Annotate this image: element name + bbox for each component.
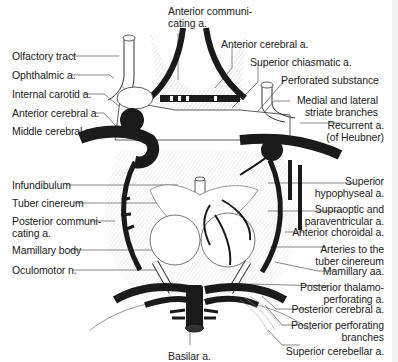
label-line-1: Medial and lateral	[297, 94, 378, 106]
label-line-2: hypophyseal a.	[315, 187, 384, 199]
label-line-2: cating a.	[12, 227, 101, 239]
label-mamillary-body: Mamillary body	[12, 244, 81, 256]
label-superior-cerebellar-artery: Superior cerebellar a.	[286, 345, 384, 357]
label-perforated-substance: Perforated substance	[281, 74, 379, 86]
label-line-1: Supraoptic and	[305, 203, 384, 215]
label-line-1: Posterior perforating	[291, 319, 384, 331]
label-infundibulum: Infundibulum	[12, 179, 71, 191]
label-line-1: Superior	[315, 175, 384, 187]
label-line-1: Arteries to the	[315, 243, 384, 255]
label-posterior-perforating-branches: Posterior perforating branches	[291, 319, 384, 343]
label-line-1: Posterior communi-	[12, 215, 101, 227]
label-line-2: striate branches	[297, 106, 378, 118]
label-line-1: Posterior thalamo-	[300, 281, 384, 293]
label-supraoptic-paraventricular-artery: Supraoptic and paraventricular a.	[305, 203, 384, 227]
label-line-2: branches	[291, 331, 384, 343]
label-posterior-communicating-artery: Posterior communi- cating a.	[12, 215, 101, 239]
label-basilar-artery: Basilar a.	[168, 350, 211, 362]
label-arteries-to-tuber-cinereum: Arteries to the tuber cinereum	[315, 243, 384, 267]
label-superior-hypophyseal-artery: Superior hypophyseal a.	[315, 175, 384, 199]
label-recurrent-artery-heubner: Recurrent a. (of Heubner)	[326, 119, 384, 143]
label-superior-chiasmatic-artery: Superior chiasmatic a.	[250, 56, 352, 68]
label-anterior-cerebral-artery-right: Anterior cerebral a.	[221, 38, 308, 50]
label-olfactory-tract: Olfactory tract	[12, 50, 76, 62]
label-line-2: cating a.	[168, 17, 252, 29]
label-tuber-cinereum: Tuber cinereum	[12, 197, 84, 209]
page-edge	[392, 0, 398, 362]
label-posterior-thalamoperforating-artery: Posterior thalamo- perforating a.	[300, 281, 384, 305]
label-mamillary-arteries: Mamillary aa.	[323, 265, 384, 277]
label-middle-cerebral-artery: Middle cerebral a.	[12, 125, 94, 137]
label-ophthalmic-artery: Ophthalmic a.	[12, 69, 75, 81]
label-oculomotor-nerve: Oculomotor n.	[12, 264, 77, 276]
label-anterior-cerebral-artery-left: Anterior cerebral a.	[12, 107, 99, 119]
label-anterior-communicating-artery: Anterior communi- cating a.	[168, 5, 252, 29]
circle-of-willis-diagram: Anterior communi- cating a. Anterior cer…	[0, 0, 398, 362]
label-internal-carotid-artery: Internal carotid a.	[12, 88, 91, 100]
label-posterior-cerebral-artery: Posterior cerebral a.	[292, 303, 384, 315]
label-line-1: Recurrent a.	[326, 119, 384, 131]
label-medial-lateral-striate-branches: Medial and lateral striate branches	[297, 94, 378, 118]
label-line-1: Anterior communi-	[168, 5, 252, 17]
label-line-2: (of Heubner)	[326, 131, 384, 143]
label-anterior-choroidal-artery: Anterior choroidal a.	[292, 226, 384, 238]
